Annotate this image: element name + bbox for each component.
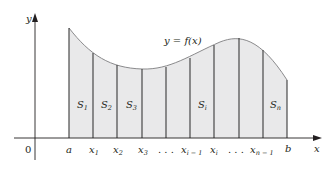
riemann-strips-figure: y x 0 y = f(x) a x1 x2 x3 . . . xi − 1 x… xyxy=(0,0,328,169)
curve-label: y = f(x) xyxy=(163,35,202,46)
tick-a: a xyxy=(66,144,72,155)
tick-b: b xyxy=(285,143,291,154)
tick-x3: x3 xyxy=(138,144,148,157)
tick-x1: x1 xyxy=(89,144,99,157)
tick-x2: x2 xyxy=(113,144,123,157)
tick-xi: xi xyxy=(210,144,218,157)
tick-labels: a x1 x2 x3 . . . xi − 1 xi . . . xn − 1 … xyxy=(66,143,291,157)
origin-label: 0 xyxy=(25,144,31,155)
tick-dots-2: . . . xyxy=(228,144,244,155)
y-axis-label: y xyxy=(25,13,32,24)
x-axis-label: x xyxy=(314,143,320,154)
y-axis-arrow-icon xyxy=(32,13,38,22)
tick-dots-1: . . . xyxy=(158,144,174,155)
x-axis-arrow-icon xyxy=(313,135,322,141)
tick-xi-minus-1: xi − 1 xyxy=(181,144,202,157)
figure-svg: y x 0 y = f(x) a x1 x2 x3 . . . xi − 1 x… xyxy=(0,0,328,169)
tick-xn-minus-1: xn − 1 xyxy=(250,144,274,157)
